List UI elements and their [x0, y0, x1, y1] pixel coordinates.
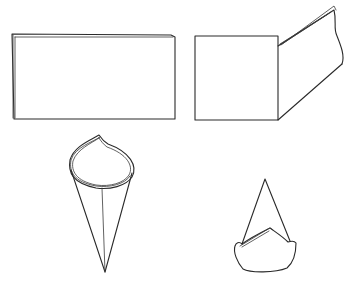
- figure-step-1-rectangle: [12, 34, 175, 119]
- figure-step-3-cone: [70, 135, 134, 272]
- figure-step-4-standing-cone: [234, 179, 296, 272]
- napkin-folding-diagram: [0, 0, 354, 293]
- figure-step-2-folded: [195, 6, 343, 120]
